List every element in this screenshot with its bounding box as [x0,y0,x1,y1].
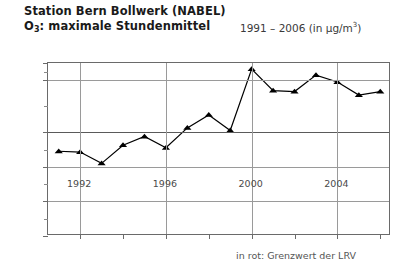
y-tick-200 [43,63,48,64]
range-text: 1991 – 2006 (in µg/m [240,22,353,34]
data-point-2003 [312,72,320,77]
x-tick-1994 [123,234,124,239]
x-tick-2006 [380,234,381,239]
chart-title-line1: Station Bern Bollwerk (NABEL) [24,4,226,19]
data-point-1995 [140,134,148,139]
data-point-2006 [376,89,384,94]
chart-title-block: Station Bern Bollwerk (NABEL) O3: maxima… [24,4,226,35]
y-tick-40 [43,201,48,202]
gridline-x-2000 [252,63,253,234]
y-tick-minor-20 [44,219,48,220]
x-tick-2002 [295,234,296,239]
y-tick-minor-190 [44,72,48,73]
plot-area [47,62,390,235]
data-series-line [48,63,391,236]
range-close: ) [357,22,361,34]
data-point-1994 [119,142,127,147]
gridline-x-2004 [337,63,338,234]
gridline-x-1996 [166,63,167,234]
x-axis-label-1996: 1996 [153,178,177,189]
y-tick-minor-150 [44,106,48,107]
x-tick-1992 [80,234,81,239]
y-tick-minor-100 [44,150,48,151]
series-polyline [59,69,381,163]
chart-title-line2: O3: maximale Stundenmittel [24,19,226,35]
ozone-chart: Station Bern Bollwerk (NABEL) O3: maxima… [0,0,404,270]
chart-range-label: 1991 – 2006 (in µg/m3) [240,21,361,34]
y-tick-minor-60 [44,184,48,185]
x-axis-label-1992: 1992 [67,178,91,189]
x-axis-label-2004: 2004 [324,178,348,189]
chart-footnote: in rot: Grenzwert der LRV [236,250,356,261]
y-tick-120 [43,132,48,133]
data-point-1998 [205,112,213,117]
x-tick-1998 [209,234,210,239]
x-tick-1996 [166,234,167,239]
y-tick-180 [43,80,48,81]
x-tick-2000 [252,234,253,239]
y-tick-0 [43,236,48,237]
chart-title-subscript: 3 [34,25,40,34]
chart-title-o: O [24,19,34,33]
chart-title-rest: : maximale Stundenmittel [40,19,211,33]
x-tick-2004 [337,234,338,239]
x-axis-label-2000: 2000 [239,178,263,189]
y-tick-80 [43,167,48,168]
gridline-x-1992 [80,63,81,234]
